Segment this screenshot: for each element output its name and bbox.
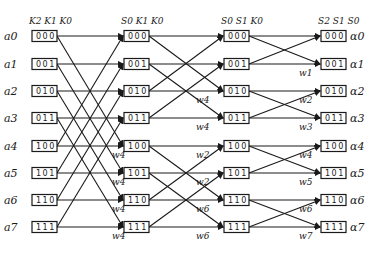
svg-text:000: 000 bbox=[36, 32, 56, 41]
svg-text:101: 101 bbox=[228, 169, 248, 178]
twiddle-label: w4 bbox=[112, 231, 126, 241]
node-box-c1-r6: 110 bbox=[124, 195, 149, 206]
svg-text:011: 011 bbox=[36, 114, 56, 123]
column-header: S0 K1 K0 bbox=[121, 16, 164, 26]
node-box-c0-r5: 101 bbox=[32, 168, 57, 179]
twiddle-label: w2 bbox=[299, 95, 313, 105]
twiddle-label: w6 bbox=[299, 204, 313, 214]
node-box-c0-r0: 000 bbox=[32, 31, 57, 42]
node-box-c0-r1: 001 bbox=[32, 59, 57, 70]
node-box-c2-r6: 110 bbox=[224, 195, 249, 206]
svg-text:010: 010 bbox=[228, 87, 248, 96]
svg-text:000: 000 bbox=[128, 32, 148, 41]
node-box-c1-r2: 010 bbox=[124, 86, 149, 97]
svg-text:100: 100 bbox=[128, 142, 148, 151]
output-label: α6 bbox=[350, 194, 364, 207]
svg-text:011: 011 bbox=[128, 114, 148, 123]
twiddle-label: w6 bbox=[196, 204, 210, 214]
node-box-c3-r6: 110 bbox=[321, 195, 346, 206]
node-box-c0-r6: 110 bbox=[32, 195, 57, 206]
node-box-c3-r5: 101 bbox=[321, 168, 346, 179]
node-box-c2-r5: 101 bbox=[224, 168, 249, 179]
twiddle-label: w4 bbox=[196, 95, 210, 105]
svg-text:001: 001 bbox=[228, 60, 248, 69]
svg-text:111: 111 bbox=[128, 223, 148, 232]
node-box-c3-r3: 011 bbox=[321, 113, 346, 124]
node-box-c1-r3: 011 bbox=[124, 113, 149, 124]
node-box-c3-r0: 000 bbox=[321, 31, 346, 42]
twiddle-label: w6 bbox=[196, 231, 210, 241]
node-box-c1-r0: 000 bbox=[124, 31, 149, 42]
svg-text:010: 010 bbox=[128, 87, 148, 96]
node-box-c2-r3: 011 bbox=[224, 113, 249, 124]
output-label: α5 bbox=[350, 167, 364, 180]
svg-text:100: 100 bbox=[228, 142, 248, 151]
twiddle-label: w2 bbox=[196, 150, 210, 160]
svg-text:101: 101 bbox=[128, 169, 148, 178]
svg-text:001: 001 bbox=[128, 60, 148, 69]
node-box-c1-r5: 101 bbox=[124, 168, 149, 179]
svg-text:111: 111 bbox=[228, 223, 248, 232]
node-box-c2-r2: 010 bbox=[224, 86, 249, 97]
node-box-c3-r4: 100 bbox=[321, 141, 346, 152]
svg-text:010: 010 bbox=[325, 87, 345, 96]
svg-text:011: 011 bbox=[325, 114, 345, 123]
svg-text:110: 110 bbox=[36, 196, 56, 205]
output-label: α0 bbox=[350, 30, 364, 43]
node-box-c0-r7: 111 bbox=[32, 222, 57, 233]
twiddle-label: w5 bbox=[299, 177, 313, 187]
svg-text:111: 111 bbox=[325, 223, 345, 232]
connection-lines bbox=[57, 36, 320, 227]
node-box-c3-r1: 001 bbox=[321, 59, 346, 70]
twiddle-label: w4 bbox=[112, 204, 126, 214]
output-label: α3 bbox=[350, 112, 364, 125]
twiddle-label: w4 bbox=[299, 150, 313, 160]
svg-text:011: 011 bbox=[228, 114, 248, 123]
input-label: a3 bbox=[4, 112, 18, 125]
input-label: a2 bbox=[4, 85, 18, 98]
node-box-c2-r7: 111 bbox=[224, 222, 249, 233]
svg-text:101: 101 bbox=[36, 169, 56, 178]
twiddle-label: w2 bbox=[196, 177, 210, 187]
output-label: α1 bbox=[350, 58, 364, 71]
twiddle-label: w4 bbox=[112, 177, 126, 187]
node-box-c2-r0: 000 bbox=[224, 31, 249, 42]
twiddle-label: w4 bbox=[112, 150, 126, 160]
twiddle-label: w3 bbox=[299, 122, 313, 132]
node-box-c2-r4: 100 bbox=[224, 141, 249, 152]
svg-text:101: 101 bbox=[325, 169, 345, 178]
node-box-c3-r2: 010 bbox=[321, 86, 346, 97]
input-label: a0 bbox=[4, 30, 18, 43]
node-box-c0-r3: 011 bbox=[32, 113, 57, 124]
node-box-c2-r1: 001 bbox=[224, 59, 249, 70]
input-label: a1 bbox=[4, 58, 18, 71]
node-box-c0-r4: 100 bbox=[32, 141, 57, 152]
svg-text:100: 100 bbox=[325, 142, 345, 151]
labels: K2 K1 K0S0 K1 K0S0 S1 K0S2 S1 S0a0a1a2a3… bbox=[4, 16, 364, 241]
svg-text:111: 111 bbox=[36, 223, 56, 232]
svg-text:000: 000 bbox=[325, 32, 345, 41]
input-label: a6 bbox=[4, 194, 18, 207]
twiddle-label: w4 bbox=[196, 122, 210, 132]
svg-text:110: 110 bbox=[325, 196, 345, 205]
column-header: K2 K1 K0 bbox=[28, 16, 72, 26]
svg-text:010: 010 bbox=[36, 87, 56, 96]
node-box-c1-r4: 100 bbox=[124, 141, 149, 152]
twiddle-label: w1 bbox=[299, 68, 312, 78]
svg-text:110: 110 bbox=[128, 196, 148, 205]
output-label: α7 bbox=[350, 221, 364, 234]
node-box-c1-r7: 111 bbox=[124, 222, 149, 233]
svg-text:001: 001 bbox=[325, 60, 345, 69]
twiddle-label: w7 bbox=[299, 231, 313, 241]
svg-text:000: 000 bbox=[228, 32, 248, 41]
fft-butterfly-diagram: 0000010100111001011101110000010100111001… bbox=[0, 0, 377, 257]
input-label: a4 bbox=[4, 140, 18, 153]
output-label: α2 bbox=[350, 85, 364, 98]
column-header: S0 S1 K0 bbox=[221, 16, 263, 26]
node-box-c1-r1: 001 bbox=[124, 59, 149, 70]
input-label: a5 bbox=[4, 167, 18, 180]
column-header: S2 S1 S0 bbox=[318, 16, 360, 26]
svg-text:100: 100 bbox=[36, 142, 56, 151]
output-label: α4 bbox=[350, 140, 364, 153]
svg-text:110: 110 bbox=[228, 196, 248, 205]
